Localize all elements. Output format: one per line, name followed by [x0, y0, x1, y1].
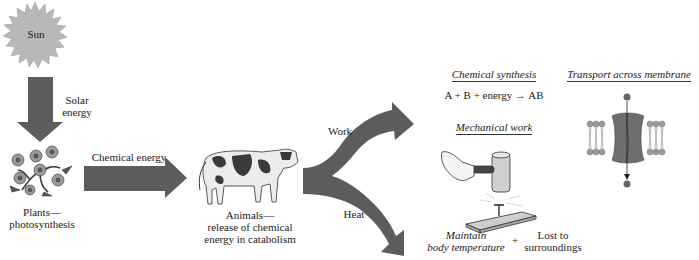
hammer-nail-icon [441, 152, 536, 233]
flower-plant-icon [10, 146, 72, 196]
work-label: Work [320, 125, 360, 137]
maintain-body-temp-label: Maintain body temperature [420, 229, 512, 253]
animals-label-line2: release of chemical [200, 221, 300, 233]
solar-energy-label: Solar energy [60, 94, 94, 118]
chemical-synthesis-title-text: Chemical synthesis [452, 68, 537, 82]
chemical-energy-arrow [84, 157, 187, 198]
chemical-synthesis-equation: A + B + energy → AB [432, 89, 556, 101]
maintain-line2: body temperature [420, 241, 512, 253]
plants-label-line2: photosynthesis [0, 218, 84, 230]
solar-energy-arrow [17, 77, 63, 142]
membrane-channel-icon [587, 94, 665, 188]
lost-line2: surroundings [520, 241, 586, 253]
lost-line1: Lost to [520, 229, 586, 241]
animals-label: Animals— release of chemical energy in c… [200, 209, 300, 245]
animals-label-line3: energy in catabolism [200, 233, 300, 245]
chemical-synthesis-title: Chemical synthesis [450, 68, 538, 80]
equation-arrow: → [515, 89, 526, 101]
maintain-line1: Maintain [420, 229, 512, 241]
chemical-energy-label: Chemical energy [84, 151, 174, 163]
cow-icon [199, 149, 298, 204]
lost-to-surroundings-label: Lost to surroundings [520, 229, 586, 253]
solar-energy-label-line1: Solar [60, 94, 94, 106]
plants-label: Plants— photosynthesis [0, 206, 84, 230]
heat-label: Heat [334, 208, 374, 220]
sun-label: Sun [24, 28, 48, 40]
plants-label-line1: Plants— [0, 206, 84, 218]
plus-sign: + [510, 234, 520, 246]
equation-left: A + B + energy [445, 89, 513, 101]
transport-title: Transport across membrane [564, 68, 694, 80]
transport-title-text: Transport across membrane [567, 68, 691, 82]
solar-energy-label-line2: energy [60, 106, 94, 118]
mechanical-work-title-text: Mechanical work [456, 121, 533, 135]
animals-label-line1: Animals— [200, 209, 300, 221]
equation-right: AB [528, 89, 543, 101]
mechanical-work-title: Mechanical work [452, 121, 536, 133]
